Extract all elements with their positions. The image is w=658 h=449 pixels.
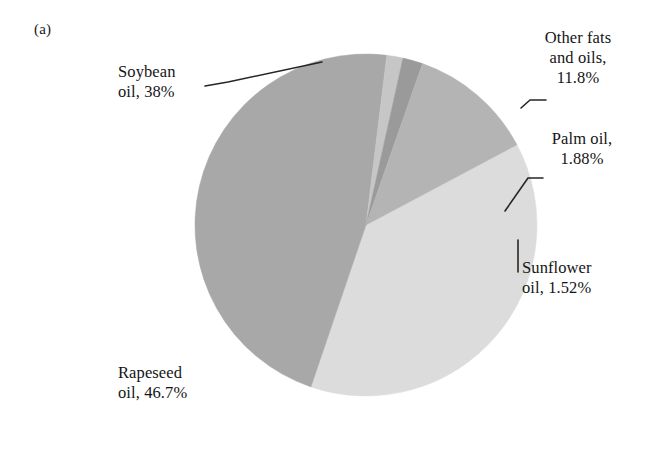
slice-label-soybean: Soybean oil, 38% — [118, 62, 248, 102]
leader-line-otherfats — [521, 100, 546, 108]
slice-label-other-fats-and-oils: Other fats and oils, 11.8% — [512, 28, 644, 88]
slice-label-palm-oil: Palm oil, 1.88% — [520, 129, 644, 169]
slice-label-rapeseed: Rapeseed oil, 46.7% — [118, 363, 258, 403]
slice-label-sunflower-oil: Sunflower oil, 1.52% — [522, 258, 650, 298]
pie-slice-group — [195, 54, 537, 396]
pie-chart-figure: (a) Soybean oil, 38% Rapeseed oil, 46.7%… — [0, 0, 658, 449]
